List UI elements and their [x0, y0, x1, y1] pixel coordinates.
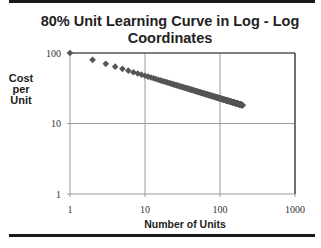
data-point-diamond	[112, 63, 119, 70]
data-point-diamond	[67, 50, 74, 57]
y-tick-label: 10	[51, 118, 61, 129]
data-series	[67, 50, 246, 109]
data-point-diamond	[125, 67, 132, 74]
y-tick-label: 1	[56, 189, 61, 200]
x-tick-label: 1	[68, 204, 73, 215]
x-tick-label: 10	[140, 204, 150, 215]
data-point-diamond	[119, 66, 126, 73]
data-point-diamond	[89, 57, 96, 64]
x-tick-label: 1000	[285, 204, 305, 215]
plot-area: 1101001000110100	[0, 0, 321, 248]
y-tick-label: 100	[46, 48, 61, 59]
x-tick-label: 100	[213, 204, 228, 215]
bottom-rule	[9, 234, 315, 237]
x-axis-label: Number of Units	[120, 218, 250, 230]
data-point-diamond	[102, 61, 109, 68]
